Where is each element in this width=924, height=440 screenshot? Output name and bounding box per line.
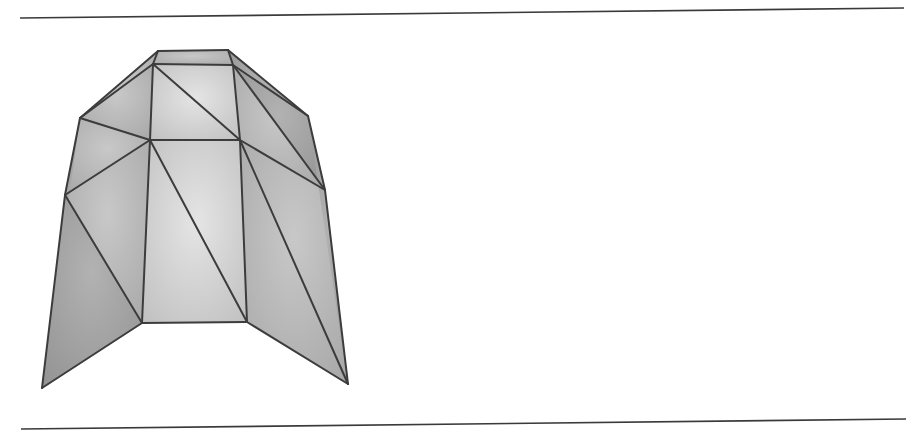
mesh-edge [153,64,233,65]
mesh-edge [158,50,228,51]
mesh-figure [0,0,924,440]
mesh-face [153,50,233,65]
bottom-rule [21,419,906,429]
mesh-edge [142,322,247,323]
top-rule [20,8,904,18]
